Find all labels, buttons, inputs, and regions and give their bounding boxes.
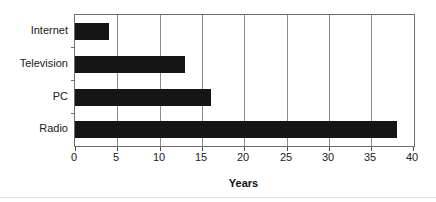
plot-area bbox=[74, 14, 415, 147]
bar-internet bbox=[75, 23, 109, 40]
xtick-label-5: 5 bbox=[96, 151, 136, 164]
xtick-label-40: 40 bbox=[392, 151, 432, 164]
bar-television bbox=[75, 56, 185, 73]
xtick-label-20: 20 bbox=[223, 151, 263, 164]
xtick-label-35: 35 bbox=[350, 151, 390, 164]
bar-row-television bbox=[75, 48, 414, 81]
x-axis-title: Years bbox=[74, 177, 413, 189]
y-axis-label-pc: PC bbox=[0, 90, 68, 102]
y-axis-label-television: Television bbox=[0, 57, 68, 69]
y-axis-label-internet: Internet bbox=[0, 24, 68, 36]
bar-row-pc bbox=[75, 81, 414, 114]
xtick-label-30: 30 bbox=[308, 151, 348, 164]
xtick-label-0: 0 bbox=[54, 151, 94, 164]
bar-row-internet bbox=[75, 15, 414, 48]
bottom-divider bbox=[0, 197, 436, 198]
bar-chart-figure: Internet Television PC Radio bbox=[0, 0, 436, 202]
y-axis-label-radio: Radio bbox=[0, 122, 68, 134]
bar-row-radio bbox=[75, 113, 414, 146]
xtick-label-25: 25 bbox=[266, 151, 306, 164]
bar-radio bbox=[75, 121, 397, 138]
xtick-label-15: 15 bbox=[181, 151, 221, 164]
bar-pc bbox=[75, 89, 211, 106]
xtick-label-10: 10 bbox=[139, 151, 179, 164]
